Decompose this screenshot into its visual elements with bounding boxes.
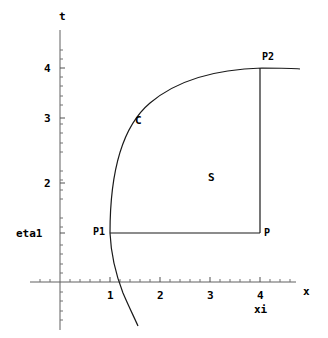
x-axis-xi-label: xi: [254, 304, 267, 315]
point-label-p1: P1: [93, 227, 105, 237]
y-tick-label-eta1: eta1: [16, 228, 43, 239]
x-tick-label-3: 3: [207, 290, 214, 301]
curve-c-path: [110, 68, 300, 233]
region-label-s: S: [208, 172, 215, 183]
point-label-p: P: [264, 228, 270, 238]
curve-c-lower-path: [110, 233, 138, 326]
y-tick-label-3: 3: [44, 113, 51, 124]
x-axis-major-ticks: [110, 277, 260, 282]
y-tick-label-4: 4: [44, 63, 51, 74]
point-label-p2: P2: [262, 52, 274, 62]
y-axis-major-ticks: [60, 68, 65, 233]
plot-canvas: [0, 0, 328, 338]
x-tick-label-1: 1: [107, 290, 114, 301]
curve-label-c: C: [135, 115, 142, 126]
y-tick-label-2: 2: [44, 178, 51, 189]
y-axis-title: t: [59, 11, 66, 22]
x-tick-label-2: 2: [157, 290, 164, 301]
x-axis-title: x: [303, 286, 310, 297]
x-tick-label-4: 4: [257, 290, 264, 301]
plot-figure: t x 1 2 3 4 xi 4 3 2 eta1 P1 P P2 C S: [0, 0, 328, 338]
